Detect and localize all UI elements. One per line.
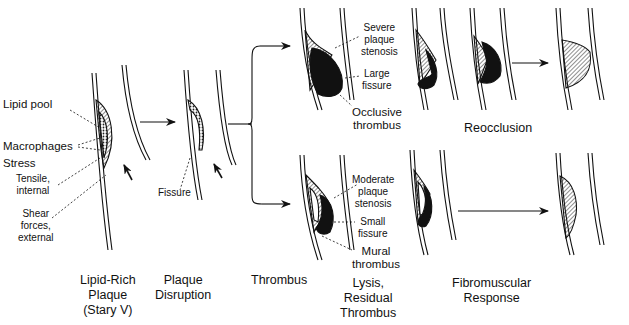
- label-stress: Stress: [3, 157, 36, 170]
- vessel-plaque-disruption: [184, 70, 236, 200]
- label-lipid-pool: Lipid pool: [3, 98, 52, 111]
- vessel-fibromuscular-lower: [556, 153, 604, 255]
- stage-label-fibromuscular-response: Fibromuscular Response: [452, 276, 531, 306]
- vessel-occlusive-thrombus: [300, 8, 354, 110]
- vessel-mural-thrombus: [300, 155, 354, 260]
- stage-label-lysis-residual-thrombus: Lysis, Residual Thrombus: [340, 276, 396, 321]
- label-shear-forces: Shear forces, external: [18, 208, 54, 244]
- label-severe-plaque-stenosis: Severe plaque stenosis: [361, 22, 398, 58]
- shear-arrow-2-icon: [214, 164, 222, 178]
- label-small-fissure: Small fissure: [358, 216, 387, 240]
- vessel-lysis-upper-a: [412, 8, 458, 110]
- label-macrophages: Macrophages: [3, 140, 73, 153]
- stage-label-thrombus: Thrombus: [251, 273, 307, 288]
- vessel-lysis-lower: [410, 150, 456, 255]
- stage-label-plaque-disruption: Plaque Disruption: [155, 273, 211, 303]
- label-mural-thrombus: Mural thrombus: [352, 245, 400, 271]
- label-fissure: Fissure: [158, 187, 191, 199]
- label-reocclusion: Reocclusion: [464, 121, 532, 136]
- vessel-lysis-upper-b: [470, 8, 516, 110]
- shear-arrow-icon: [124, 165, 132, 180]
- leader-fissure: [180, 158, 190, 190]
- label-moderate-plaque-stenosis: Moderate plaque stenosis: [352, 174, 394, 210]
- label-large-fissure: Large fissure: [362, 68, 391, 92]
- label-occlusive-thrombus: Occlusive thrombus: [352, 106, 402, 132]
- label-tensile: Tensile, internal: [16, 173, 50, 197]
- vessel-lipid-rich-plaque: [92, 65, 150, 250]
- stage-label-lipid-rich-plaque: Lipid-Rich Plaque (Stary V): [80, 273, 136, 318]
- vessel-fibromuscular-upper: [556, 8, 604, 110]
- branch-brace: [248, 46, 262, 204]
